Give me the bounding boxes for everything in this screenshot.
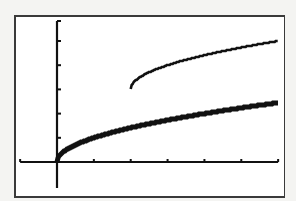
curves — [57, 41, 278, 162]
graph-plot — [0, 0, 296, 201]
curve-sqrt-x — [57, 103, 278, 162]
axes — [20, 21, 278, 188]
curve-shifted-sqrt — [131, 41, 278, 89]
